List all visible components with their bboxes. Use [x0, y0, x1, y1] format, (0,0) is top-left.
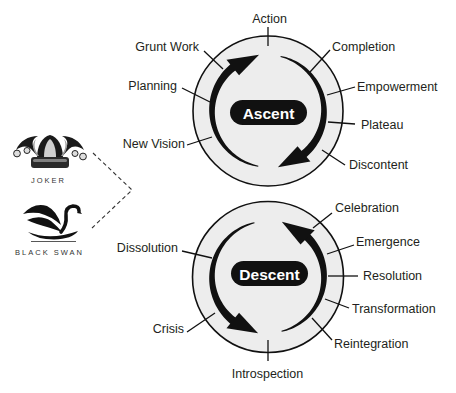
archetype-label-joker: JOKER — [31, 176, 66, 185]
stage-label-completion: Completion — [332, 40, 395, 54]
stage-label-planning: Planning — [128, 79, 177, 93]
jester-bell-icon — [72, 151, 78, 157]
stage-label-action: Action — [252, 12, 287, 26]
stage-label-introspection: Introspection — [232, 367, 304, 381]
jester-bell-icon — [24, 148, 30, 154]
ascent-title: Ascent — [243, 105, 295, 122]
descent-title: Descent — [239, 266, 299, 283]
jester-bell-icon — [14, 150, 21, 157]
stage-label-reintegration: Reintegration — [334, 337, 408, 351]
stage-label-emergence: Emergence — [356, 235, 420, 249]
stage-label-crisis: Crisis — [153, 322, 184, 336]
jester-brim — [31, 157, 69, 168]
jester-bell-icon — [80, 153, 87, 160]
stage-label-resolution: Resolution — [363, 269, 422, 283]
stage-label-new-vision: New Vision — [123, 137, 185, 151]
cycle-diagram: Ascent New Vision Planning Grunt Work Ac… — [0, 0, 456, 393]
stage-label-discontent: Discontent — [349, 158, 409, 172]
jester-brim-highlight — [33, 159, 67, 162]
stage-label-transformation: Transformation — [352, 302, 436, 316]
stage-label-celebration: Celebration — [335, 201, 399, 215]
archetype-label-black-swan: BLACK SWAN — [15, 248, 84, 257]
stage-label-empowerment: Empowerment — [357, 80, 438, 94]
stage-label-plateau: Plateau — [361, 118, 403, 132]
stage-label-dissolution: Dissolution — [117, 241, 178, 255]
stage-label-grunt-work: Grunt Work — [135, 40, 199, 54]
